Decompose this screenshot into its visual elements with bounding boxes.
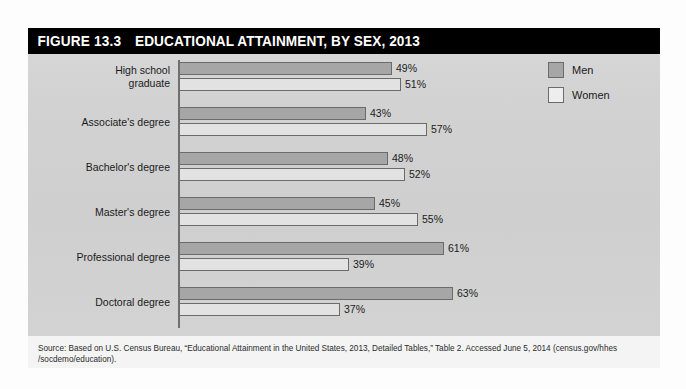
chart-legend: Men Women bbox=[548, 62, 658, 112]
bar-women bbox=[180, 123, 427, 136]
bar-men bbox=[180, 107, 366, 120]
bar-track: 48% 52% bbox=[180, 148, 650, 193]
bar-track: 61% 39% bbox=[180, 238, 650, 283]
bar-group: Doctoral degree 63% 37% bbox=[28, 283, 660, 328]
bar-value-women: 51% bbox=[405, 78, 426, 91]
bar-value-women: 52% bbox=[409, 168, 430, 181]
category-label: Associate's degree bbox=[20, 116, 170, 129]
legend-item-women: Women bbox=[548, 87, 658, 103]
category-label: High school graduate bbox=[20, 64, 170, 89]
category-label: Doctoral degree bbox=[20, 296, 170, 309]
bar-value-women: 55% bbox=[422, 213, 443, 226]
chart-area: High school graduate 49% 51% Associate's… bbox=[28, 54, 660, 336]
category-label: Professional degree bbox=[20, 251, 170, 264]
bar-women bbox=[180, 303, 340, 316]
bar-value-men: 61% bbox=[448, 242, 469, 255]
legend-label-men: Men bbox=[572, 64, 593, 76]
legend-swatch-women-icon bbox=[548, 87, 564, 103]
bar-men bbox=[180, 287, 453, 300]
bar-value-men: 63% bbox=[457, 287, 478, 300]
bar-value-men: 48% bbox=[392, 152, 413, 165]
source-note: Source: Based on U.S. Census Bureau, “Ed… bbox=[28, 336, 660, 368]
figure-root: FIGURE 13.3 EDUCATIONAL ATTAINMENT, BY S… bbox=[0, 0, 686, 389]
bar-men bbox=[180, 62, 392, 75]
source-note-line2: /socdemo/education). bbox=[38, 354, 650, 365]
bar-women bbox=[180, 258, 349, 271]
bar-women bbox=[180, 168, 405, 181]
legend-swatch-men-icon bbox=[548, 62, 564, 78]
category-label: Master's degree bbox=[20, 206, 170, 219]
bar-men bbox=[180, 242, 444, 255]
bar-value-women: 39% bbox=[353, 258, 374, 271]
source-note-line1: Source: Based on U.S. Census Bureau, “Ed… bbox=[38, 343, 650, 354]
legend-item-men: Men bbox=[548, 62, 658, 78]
bar-men bbox=[180, 197, 375, 210]
bar-value-men: 43% bbox=[370, 107, 391, 120]
bar-women bbox=[180, 78, 401, 91]
bar-group: Bachelor's degree 48% 52% bbox=[28, 148, 660, 193]
legend-label-women: Women bbox=[572, 89, 610, 101]
bar-value-women: 37% bbox=[344, 303, 365, 316]
bar-track: 63% 37% bbox=[180, 283, 650, 328]
bar-value-women: 57% bbox=[431, 123, 452, 136]
page-title: EDUCATIONAL ATTAINMENT, BY SEX, 2013 bbox=[135, 33, 420, 49]
bar-group: Master's degree 45% 55% bbox=[28, 193, 660, 238]
bar-value-men: 45% bbox=[379, 197, 400, 210]
figure-panel: FIGURE 13.3 EDUCATIONAL ATTAINMENT, BY S… bbox=[28, 28, 660, 368]
bar-women bbox=[180, 213, 418, 226]
category-label: Bachelor's degree bbox=[20, 161, 170, 174]
plot-inner: High school graduate 49% 51% Associate's… bbox=[28, 54, 660, 336]
figure-title-bar: FIGURE 13.3 EDUCATIONAL ATTAINMENT, BY S… bbox=[28, 28, 660, 54]
bar-value-men: 49% bbox=[396, 62, 417, 75]
bar-group: Professional degree 61% 39% bbox=[28, 238, 660, 283]
bar-men bbox=[180, 152, 388, 165]
bar-track: 45% 55% bbox=[180, 193, 650, 238]
figure-number: FIGURE 13.3 bbox=[28, 33, 133, 49]
